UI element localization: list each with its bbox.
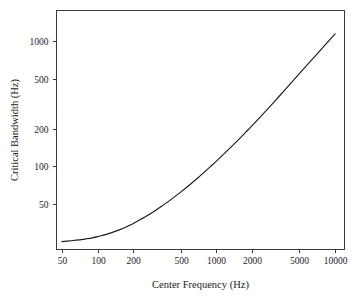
- y-tick-label: 500: [34, 75, 49, 85]
- chart-background: [0, 0, 359, 299]
- x-tick-label: 2000: [243, 256, 262, 266]
- chart-figure: 5010020050010002000500010000 50100200500…: [0, 0, 359, 299]
- y-tick-label: 1000: [30, 37, 49, 47]
- y-tick-label: 100: [34, 162, 49, 172]
- chart-plot-area: 5010020050010002000500010000 50100200500…: [0, 0, 359, 299]
- y-tick-label: 50: [39, 200, 49, 210]
- x-tick-label: 1000: [207, 256, 226, 266]
- y-tick-label: 200: [34, 125, 49, 135]
- x-tick-label: 200: [126, 256, 141, 266]
- x-tick-label: 5000: [290, 256, 309, 266]
- x-tick-label: 10000: [324, 256, 348, 266]
- y-axis-title: Critical Bandwidth (Hz): [9, 78, 21, 181]
- x-axis-title: Center Frequency (Hz): [152, 279, 249, 291]
- x-tick-label: 500: [174, 256, 189, 266]
- x-tick-label: 50: [58, 256, 68, 266]
- x-tick-label: 100: [91, 256, 106, 266]
